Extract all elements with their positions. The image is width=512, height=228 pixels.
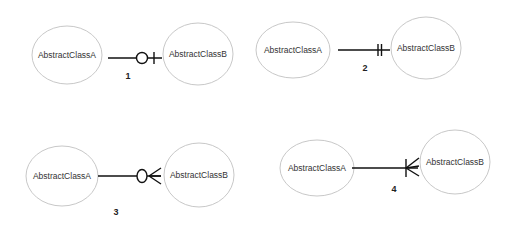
entity-label: AbstractClassB [426, 157, 484, 167]
diagram-number: 4 [391, 184, 396, 194]
diagram-2-exactly-one: AbstractClassA AbstractClassB 2 [256, 17, 461, 79]
diagram-1-zero-or-one: AbstractClassA AbstractClassB 1 [32, 23, 233, 85]
entity-label: AbstractClassB [397, 43, 455, 53]
entity-label: AbstractClassA [38, 50, 96, 60]
entity-label: AbstractClassB [170, 170, 228, 180]
diagram-number: 2 [362, 63, 367, 73]
diagram-number: 1 [125, 71, 130, 81]
diagram-3-zero-or-many: AbstractClassA AbstractClassB 3 [26, 143, 234, 217]
zero-or-many-icon [137, 168, 161, 184]
entity-label: AbstractClassB [169, 49, 227, 59]
entity-label: AbstractClassA [33, 171, 91, 181]
diagram-4-one-or-many: AbstractClassA AbstractClassB 4 [280, 130, 490, 196]
entity-label: AbstractClassA [264, 45, 322, 55]
entity-label: AbstractClassA [288, 163, 346, 173]
diagram-number: 3 [113, 207, 118, 217]
er-diagram-canvas: AbstractClassA AbstractClassB 1 Abstract… [0, 0, 512, 228]
